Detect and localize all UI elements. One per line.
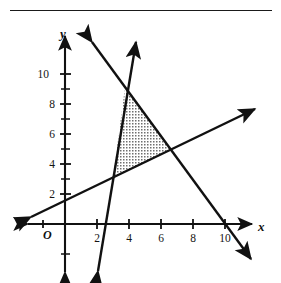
x-tick-label-8: 8 [183, 232, 203, 244]
y-tick-label-10: 10 [27, 68, 49, 80]
y-axis-label: y [60, 26, 66, 42]
y-tick-label-8: 8 [33, 98, 55, 110]
x-tick-label-6: 6 [151, 232, 171, 244]
x-tick-label-2: 2 [87, 232, 107, 244]
coordinate-graph: y x O 2 4 6 8 10 2 4 6 8 10 [0, 0, 281, 283]
y-tick-label-4: 4 [33, 158, 55, 170]
x-axis-label: x [258, 219, 265, 235]
y-tick-label-6: 6 [33, 128, 55, 140]
x-tick-label-10: 10 [215, 232, 235, 244]
y-tick-label-2: 2 [33, 188, 55, 200]
origin-label: O [43, 228, 52, 243]
x-tick-label-4: 4 [119, 232, 139, 244]
